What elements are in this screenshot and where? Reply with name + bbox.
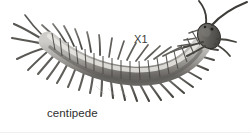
centipede-illustration <box>0 0 251 133</box>
bottom-divider <box>0 132 251 133</box>
eye-icon <box>210 27 213 30</box>
scale-label: X1 <box>134 34 148 45</box>
figure-caption: centipede <box>47 108 98 120</box>
figure-panel: X1 centipede <box>0 0 251 133</box>
eye-icon <box>204 26 207 29</box>
